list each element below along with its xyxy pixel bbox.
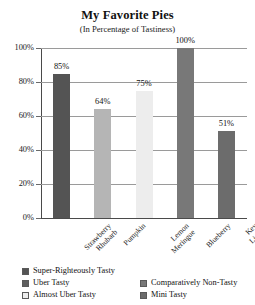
legend-label: Super-Righteously Tasty [33,267,115,275]
plot-area [41,48,247,218]
y-tick-label: 60% [0,112,34,120]
legend-swatch-icon [140,280,147,287]
bar-value-label: 64% [83,98,123,106]
y-tick-label: 20% [0,180,34,188]
bar-value-label: 75% [124,80,164,88]
bar[interactable] [53,74,70,219]
legend-swatch-icon [140,292,147,299]
y-tick-label: 40% [0,146,34,154]
y-tick-label: 0% [0,214,34,222]
chart-subtitle: (In Percentage of Tastiness) [0,24,255,34]
x-axis-line [41,218,247,219]
bar-value-label: 51% [206,120,246,128]
legend-item[interactable]: Comparatively Non-Tasty [140,279,237,287]
y-tick-label: 80% [0,78,34,86]
legend-label: Almost Uber Tasty [33,291,96,299]
legend-item[interactable]: Super-Righteously Tasty [22,267,115,275]
bar[interactable] [177,48,194,218]
y-tick-mark [36,218,41,219]
legend-item[interactable]: Mini Tasty [140,291,187,299]
x-tick-label: StrawberryRhubarb [83,222,120,259]
x-tick-label: Blueberry [205,222,233,250]
bar[interactable] [94,109,111,218]
legend-label: Mini Tasty [151,291,187,299]
chart-legend: Super-Righteously TastyUber TastyAlmost … [22,267,255,303]
legend-swatch-icon [22,292,29,299]
legend-item[interactable]: Uber Tasty [22,279,69,287]
x-tick-label: KeyLime [242,222,255,246]
legend-item[interactable]: Almost Uber Tasty [22,291,96,299]
bar-value-label: 100% [165,37,205,45]
bar[interactable] [218,131,235,218]
bar-value-label: 85% [42,63,82,71]
y-tick-label: 100% [0,44,34,52]
x-tick-label: LemonMeringue [164,222,198,256]
legend-swatch-icon [22,280,29,287]
chart-title: My Favorite Pies [0,8,255,23]
legend-swatch-icon [22,268,29,275]
x-tick-label: Pumpkin [122,222,148,248]
legend-label: Comparatively Non-Tasty [151,279,237,287]
legend-label: Uber Tasty [33,279,69,287]
bar[interactable] [136,91,153,219]
